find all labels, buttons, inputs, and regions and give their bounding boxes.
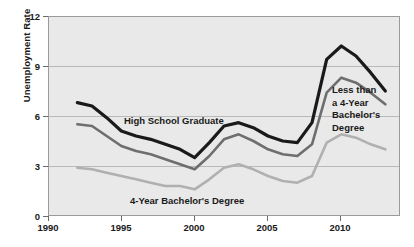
annotation-4-year-bachelors-degree: 4-Year Bachelor's Degree — [130, 195, 244, 208]
y-tick-label-6: 6 — [10, 111, 40, 122]
x-tick-mark-1995 — [121, 216, 122, 221]
x-tick-label-2005: 2005 — [247, 222, 287, 233]
y-tick-label-0: 0 — [10, 211, 40, 222]
x-tick-mark-1990 — [48, 216, 49, 221]
x-tick-mark-2010 — [340, 216, 341, 221]
x-tick-label-1995: 1995 — [101, 222, 141, 233]
series-line-4-year-bachelors — [77, 134, 385, 189]
y-tick-label-9: 9 — [10, 61, 40, 72]
y-tick-label-12: 12 — [10, 11, 40, 22]
x-tick-label-1990: 1990 — [28, 222, 68, 233]
chart-container: Unemployment Rate 0 3 6 9 12 High School… — [0, 0, 414, 247]
x-tick-mark-2005 — [267, 216, 268, 221]
x-tick-label-2010: 2010 — [320, 222, 360, 233]
annotation-high-school-graduate: High School Graduate — [124, 115, 224, 128]
x-tick-label-2000: 2000 — [174, 222, 214, 233]
x-tick-mark-2000 — [194, 216, 195, 221]
annotation-less-than-4-year-bachelors-degree: Less than a 4-Year Bachelor's Degree — [332, 84, 380, 134]
y-tick-label-3: 3 — [10, 161, 40, 172]
